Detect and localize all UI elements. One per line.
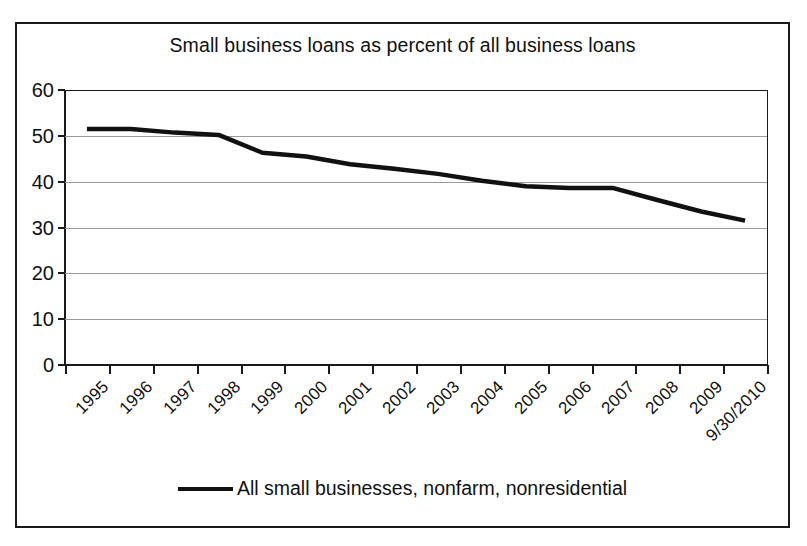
x-tick-5 bbox=[284, 365, 286, 374]
chart-screenshot: Small business loans as percent of all b… bbox=[0, 0, 807, 546]
x-tick-13 bbox=[635, 365, 637, 374]
x-tick-9 bbox=[460, 365, 462, 374]
x-tick-12 bbox=[592, 365, 594, 374]
chart-legend: All small businesses, nonfarm, nonreside… bbox=[17, 477, 788, 500]
x-tick-label-1998: 1998 bbox=[203, 377, 244, 418]
legend-line-swatch bbox=[178, 487, 233, 491]
x-tick-11 bbox=[548, 365, 550, 374]
x-tick-label-1999: 1999 bbox=[247, 377, 288, 418]
gridline-50 bbox=[65, 136, 767, 137]
x-tick-4 bbox=[241, 365, 243, 374]
x-tick-label-2003: 2003 bbox=[423, 377, 464, 418]
x-tick-label-2007: 2007 bbox=[598, 377, 639, 418]
y-tick-label-40: 40 bbox=[32, 170, 54, 193]
y-tick-label-60: 60 bbox=[32, 79, 54, 102]
x-tick-8 bbox=[416, 365, 418, 374]
gridline-10 bbox=[65, 319, 767, 320]
x-tick-label-2008: 2008 bbox=[642, 377, 683, 418]
y-tick-label-20: 20 bbox=[32, 262, 54, 285]
chart-title: Small business loans as percent of all b… bbox=[17, 34, 788, 57]
plot-right-edge bbox=[767, 90, 768, 365]
x-tick-label-2004: 2004 bbox=[467, 377, 508, 418]
gridline-20 bbox=[65, 273, 767, 274]
gridline-40 bbox=[65, 182, 767, 183]
x-tick-label-2001: 2001 bbox=[335, 377, 376, 418]
x-tick-6 bbox=[328, 365, 330, 374]
x-tick-7 bbox=[372, 365, 374, 374]
y-tick-50 bbox=[58, 135, 65, 137]
legend-entry: All small businesses, nonfarm, nonreside… bbox=[178, 477, 627, 500]
x-tick-2 bbox=[153, 365, 155, 374]
x-tick-label-1995: 1995 bbox=[72, 377, 113, 418]
x-tick-0 bbox=[65, 365, 67, 374]
y-tick-30 bbox=[58, 227, 65, 229]
x-tick-label-2005: 2005 bbox=[510, 377, 551, 418]
y-tick-label-0: 0 bbox=[43, 354, 54, 377]
y-tick-60 bbox=[58, 89, 65, 91]
y-tick-20 bbox=[58, 272, 65, 274]
y-tick-0 bbox=[58, 364, 65, 366]
x-tick-15 bbox=[723, 365, 725, 374]
x-tick-label-2006: 2006 bbox=[554, 377, 595, 418]
x-tick-label-1997: 1997 bbox=[159, 377, 200, 418]
y-tick-label-10: 10 bbox=[32, 308, 54, 331]
x-tick-10 bbox=[504, 365, 506, 374]
plot-area: 0102030405060 19951996199719981999200020… bbox=[65, 90, 767, 365]
y-tick-label-50: 50 bbox=[32, 124, 54, 147]
x-tick-16 bbox=[767, 365, 769, 374]
x-tick-label-2002: 2002 bbox=[379, 377, 420, 418]
x-tick-label-1996: 1996 bbox=[116, 377, 157, 418]
x-tick-1 bbox=[109, 365, 111, 374]
x-tick-label-2000: 2000 bbox=[291, 377, 332, 418]
y-tick-label-30: 30 bbox=[32, 216, 54, 239]
chart-frame: Small business loans as percent of all b… bbox=[15, 22, 790, 528]
gridline-60 bbox=[65, 90, 767, 91]
y-tick-40 bbox=[58, 181, 65, 183]
legend-entry-label: All small businesses, nonfarm, nonreside… bbox=[237, 477, 627, 500]
y-tick-10 bbox=[58, 318, 65, 320]
x-tick-3 bbox=[197, 365, 199, 374]
x-tick-14 bbox=[679, 365, 681, 374]
gridline-30 bbox=[65, 228, 767, 229]
